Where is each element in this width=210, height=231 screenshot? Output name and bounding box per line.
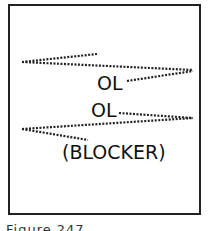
route-line-top-short bbox=[22, 54, 97, 62]
route-line-top-long bbox=[22, 62, 193, 70]
figure-caption: Figure 247 bbox=[6, 222, 85, 231]
label-blocker: (BLOCKER) bbox=[62, 143, 166, 162]
label-ol-bottom: OL bbox=[91, 101, 117, 120]
route-line-bottom-short bbox=[22, 129, 88, 140]
route-line-ol-bottom bbox=[119, 113, 193, 118]
label-ol-top: OL bbox=[97, 74, 123, 93]
route-line-ol-top bbox=[127, 71, 193, 81]
